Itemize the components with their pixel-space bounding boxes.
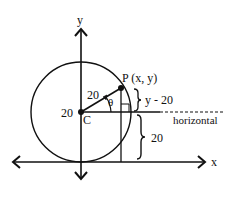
point-p-label: P (x, y) xyxy=(122,71,157,85)
right-angle-marker xyxy=(121,104,129,112)
lower-segment-label: 20 xyxy=(151,131,163,145)
x-axis xyxy=(13,156,205,168)
upper-segment-label: y - 20 xyxy=(145,93,173,107)
point-p xyxy=(118,85,124,91)
center-label: C xyxy=(83,113,91,127)
y-axis-label: y xyxy=(77,13,83,27)
lower-brace-icon xyxy=(137,115,145,159)
upper-brace-icon xyxy=(134,89,141,111)
radius-label: 20 xyxy=(87,88,99,102)
center-y-value-label: 20 xyxy=(61,106,73,120)
horizontal-label: horizontal xyxy=(173,114,218,126)
circle-diagram: x y horizontal 20 θ 20 C P (x, y) y - 20… xyxy=(0,0,239,198)
angle-label: θ xyxy=(108,96,113,108)
x-axis-label: x xyxy=(211,155,217,169)
y-axis xyxy=(75,29,87,179)
